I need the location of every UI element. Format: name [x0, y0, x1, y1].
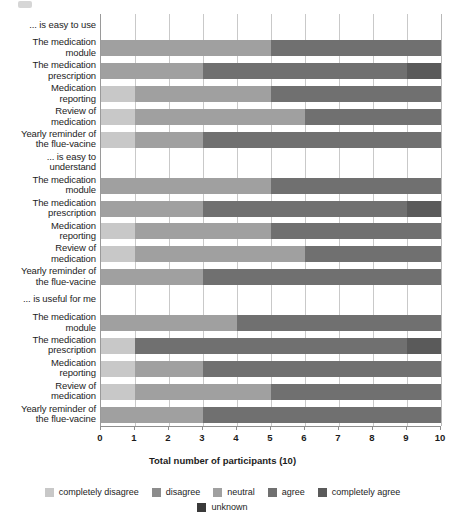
bar-segment[interactable] — [101, 407, 203, 423]
y-axis-category-label: The medicationmodule — [0, 312, 96, 333]
label-line: module — [0, 185, 96, 196]
bar-segment[interactable] — [135, 246, 305, 262]
stacked-bar[interactable] — [101, 178, 441, 194]
bar-segment[interactable] — [305, 246, 441, 262]
bar-segment[interactable] — [271, 40, 441, 56]
bar-segment[interactable] — [101, 361, 135, 377]
bar-segment[interactable] — [101, 178, 271, 194]
label-line: module — [0, 48, 96, 59]
stacked-bar[interactable] — [101, 384, 441, 400]
bar-segment[interactable] — [407, 201, 441, 217]
bar-segment[interactable] — [407, 63, 441, 79]
bar-row — [101, 128, 441, 151]
y-axis-category-label: The medicationprescription — [0, 60, 96, 81]
y-axis-group-header: ... is easy tounderstand — [0, 152, 96, 173]
label-line: understand — [0, 162, 96, 173]
y-axis-category-label: Medicationreporting — [0, 83, 96, 104]
x-axis-tick-label: 10 — [425, 432, 450, 443]
bar-row — [101, 312, 441, 335]
bar-segment[interactable] — [101, 109, 135, 125]
bar-segment[interactable] — [203, 201, 407, 217]
stacked-bar[interactable] — [101, 109, 441, 125]
stacked-bar[interactable] — [101, 246, 441, 262]
bar-segment[interactable] — [101, 132, 135, 148]
bar-segment[interactable] — [101, 315, 237, 331]
bar-segment[interactable] — [101, 201, 203, 217]
legend-item[interactable]: agree — [268, 487, 305, 497]
plot-area — [100, 14, 442, 426]
x-axis-tick — [236, 426, 237, 430]
stacked-bar[interactable] — [101, 132, 441, 148]
bar-segment[interactable] — [101, 63, 203, 79]
stacked-bar[interactable] — [101, 63, 441, 79]
label-line: the flue-vacine — [0, 277, 96, 288]
x-axis-tick-label: 0 — [85, 432, 115, 443]
legend-item[interactable]: unknown — [197, 502, 247, 512]
x-axis-tick-label: 1 — [119, 432, 149, 443]
bar-row — [101, 403, 441, 426]
legend-swatch — [152, 488, 161, 497]
bar-row — [101, 357, 441, 380]
x-axis-tick-label: 3 — [187, 432, 217, 443]
y-axis-category-label: Yearly reminder ofthe flue-vacine — [0, 129, 96, 150]
stacked-bar[interactable] — [101, 223, 441, 239]
stacked-bar[interactable] — [101, 315, 441, 331]
bar-segment[interactable] — [101, 86, 135, 102]
bar-segment[interactable] — [271, 178, 441, 194]
y-axis-category-label: Yearly reminder ofthe flue-vacine — [0, 404, 96, 425]
bar-segment[interactable] — [407, 338, 441, 354]
stacked-bar[interactable] — [101, 338, 441, 354]
stacked-bar[interactable] — [101, 201, 441, 217]
x-axis: 012345678910 — [100, 426, 441, 456]
legend-item[interactable]: disagree — [152, 487, 201, 497]
bar-segment[interactable] — [135, 361, 203, 377]
bar-segment[interactable] — [135, 223, 271, 239]
bar-segment[interactable] — [203, 269, 441, 285]
y-axis-category-label: Medicationreporting — [0, 358, 96, 379]
y-axis-category-label: Review ofmedication — [0, 381, 96, 402]
x-axis-tick-label: 4 — [221, 432, 251, 443]
y-axis-category-label: Medicationreporting — [0, 221, 96, 242]
bar-segment[interactable] — [305, 109, 441, 125]
label-line: ... is useful for me — [0, 294, 96, 305]
legend-row-secondary: unknown — [0, 502, 445, 512]
legend-label: neutral — [227, 487, 255, 497]
bar-segment[interactable] — [271, 86, 441, 102]
legend-item[interactable]: completely agree — [318, 487, 401, 497]
stacked-bar[interactable] — [101, 86, 441, 102]
bar-row — [101, 83, 441, 106]
bar-segment[interactable] — [101, 269, 203, 285]
bar-segment[interactable] — [135, 384, 271, 400]
legend-item[interactable]: neutral — [213, 487, 255, 497]
label-line: medication — [0, 254, 96, 265]
bar-segment[interactable] — [203, 407, 441, 423]
bar-segment[interactable] — [101, 223, 135, 239]
label-line: prescription — [0, 208, 96, 219]
bar-segment[interactable] — [203, 132, 441, 148]
bar-segment[interactable] — [135, 86, 271, 102]
bar-segment[interactable] — [135, 132, 203, 148]
stacked-bar[interactable] — [101, 407, 441, 423]
x-axis-title: Total number of participants (10) — [0, 455, 445, 466]
bar-segment[interactable] — [271, 384, 441, 400]
bar-segment[interactable] — [135, 109, 305, 125]
legend-item[interactable]: completely disagree — [45, 487, 139, 497]
y-axis-category-label: The medicationmodule — [0, 37, 96, 58]
stacked-bar[interactable] — [101, 269, 441, 285]
bar-segment[interactable] — [101, 338, 135, 354]
x-axis-tick — [304, 426, 305, 430]
bar-segment[interactable] — [203, 63, 407, 79]
bar-segment[interactable] — [237, 315, 441, 331]
stacked-bar[interactable] — [101, 361, 441, 377]
bar-segment[interactable] — [101, 40, 271, 56]
bar-segment[interactable] — [101, 246, 135, 262]
x-axis-tick — [270, 426, 271, 430]
bar-segment[interactable] — [203, 361, 441, 377]
bar-segment[interactable] — [271, 223, 441, 239]
bar-segment[interactable] — [135, 338, 407, 354]
bar-segment[interactable] — [101, 384, 135, 400]
x-axis-tick — [134, 426, 135, 430]
x-axis-tick — [440, 426, 441, 430]
bar-row — [101, 197, 441, 220]
stacked-bar[interactable] — [101, 40, 441, 56]
